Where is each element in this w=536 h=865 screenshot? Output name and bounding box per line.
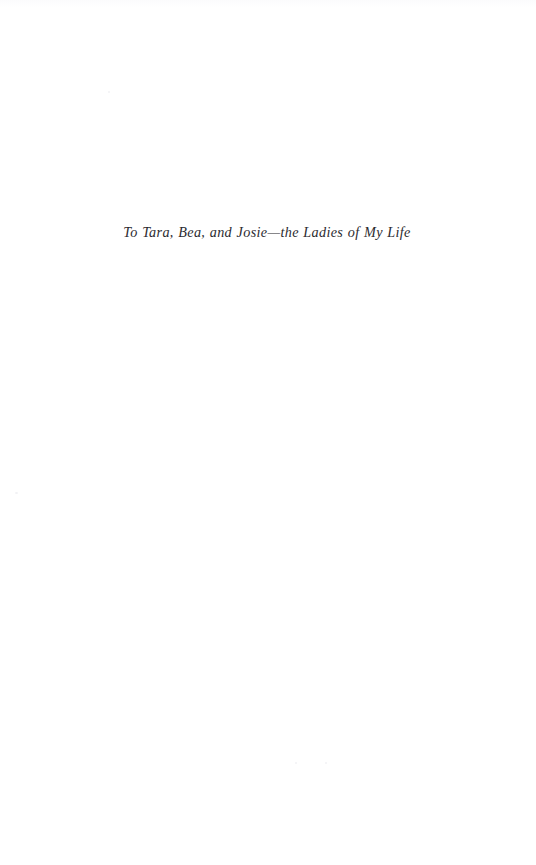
dedication-text: To Tara, Bea, and Josie—the Ladies of My… — [123, 222, 411, 242]
scan-speck — [15, 492, 18, 494]
scan-edge-artifact — [0, 0, 536, 7]
scan-speck — [295, 762, 297, 764]
dedication-block: To Tara, Bea, and Josie—the Ladies of My… — [0, 222, 536, 242]
scan-speck — [325, 762, 327, 764]
book-page: To Tara, Bea, and Josie—the Ladies of My… — [0, 0, 536, 865]
scan-speck — [108, 91, 110, 93]
